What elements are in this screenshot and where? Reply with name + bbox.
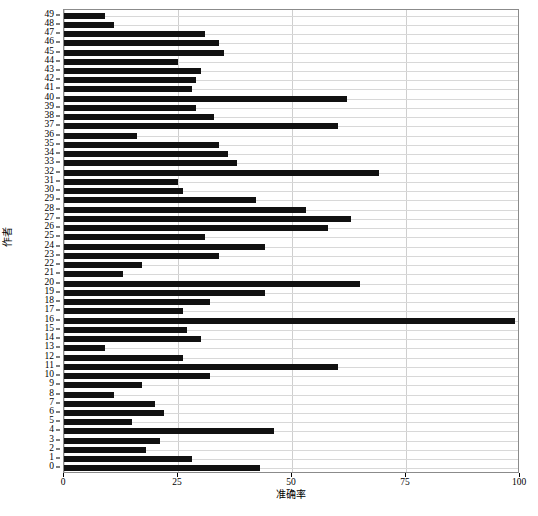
y-tick-label: 23	[45, 250, 55, 260]
y-tick-label: 24	[45, 241, 55, 251]
y-tick-label: 29	[45, 195, 55, 205]
y-tick-mark	[56, 153, 60, 154]
plot-area	[63, 9, 519, 473]
y-tick-label: 30	[45, 185, 55, 195]
bar	[64, 336, 201, 342]
bar	[64, 13, 105, 19]
y-tick-mark	[56, 338, 60, 339]
bar-chart-figure: 作者 0123456789101112131415161718192021222…	[0, 0, 538, 516]
y-tick-label: 18	[45, 296, 55, 306]
y-tick-label: 21	[45, 269, 55, 279]
bar	[64, 142, 219, 148]
y-tick-mark	[56, 402, 60, 403]
y-tick-mark	[56, 282, 60, 283]
y-tick-mark	[56, 70, 60, 71]
y-tick-label: 49	[45, 10, 55, 20]
bar	[64, 179, 178, 185]
y-tick-mark	[56, 264, 60, 265]
y-tick-label: 8	[49, 389, 54, 399]
y-tick-mark	[56, 79, 60, 80]
bar	[64, 308, 183, 314]
y-tick-mark	[56, 180, 60, 181]
bar	[64, 50, 224, 56]
x-tick-label: 25	[172, 478, 182, 488]
y-tick-label: 40	[45, 93, 55, 103]
bar	[64, 31, 205, 37]
bar	[64, 234, 205, 240]
y-tick-mark	[56, 411, 60, 412]
y-tick-mark	[56, 291, 60, 292]
y-tick-label: 6	[49, 407, 54, 417]
y-tick-mark	[56, 421, 60, 422]
y-tick-mark	[56, 245, 60, 246]
y-tick-label: 28	[45, 204, 55, 214]
y-tick-mark	[56, 88, 60, 89]
x-axis-title: 准确率	[63, 490, 519, 500]
bar	[64, 86, 192, 92]
bar	[64, 419, 132, 425]
y-tick-label: 45	[45, 47, 55, 57]
y-tick-label: 36	[45, 130, 55, 140]
bar	[64, 22, 114, 28]
bar	[64, 438, 160, 444]
bar	[64, 96, 347, 102]
x-tick-label: 100	[512, 478, 526, 488]
y-tick-mark	[56, 273, 60, 274]
y-tick-label: 32	[45, 167, 55, 177]
y-tick-label: 15	[45, 324, 55, 334]
y-tick-label: 10	[45, 370, 55, 380]
bar	[64, 401, 155, 407]
y-tick-mark	[56, 42, 60, 43]
bar	[64, 160, 237, 166]
y-gridline	[64, 395, 518, 396]
y-tick-mark	[56, 365, 60, 366]
y-tick-label: 16	[45, 315, 55, 325]
y-axis-title: 作者	[0, 0, 16, 474]
y-gridline	[64, 16, 518, 17]
y-tick-label: 7	[49, 398, 54, 408]
y-tick-label: 38	[45, 111, 55, 121]
y-tick-mark	[56, 23, 60, 24]
y-tick-mark	[56, 375, 60, 376]
bar	[64, 327, 187, 333]
y-tick-mark	[56, 106, 60, 107]
y-tick-label: 35	[45, 139, 55, 149]
y-tick-label: 39	[45, 102, 55, 112]
y-tick-label: 17	[45, 306, 55, 316]
bar	[64, 447, 146, 453]
y-tick-mark	[56, 356, 60, 357]
bar	[64, 465, 260, 471]
y-gridline	[64, 348, 518, 349]
y-tick-label: 33	[45, 158, 55, 168]
y-tick-mark	[56, 208, 60, 209]
bar	[64, 364, 338, 370]
bar	[64, 40, 219, 46]
y-tick-label: 42	[45, 74, 55, 84]
bar	[64, 68, 201, 74]
y-axis-title-text: 作者	[3, 227, 13, 247]
bar	[64, 373, 210, 379]
bar	[64, 114, 214, 120]
y-tick-mark	[56, 301, 60, 302]
y-tick-label: 9	[49, 380, 54, 390]
y-tick-label: 46	[45, 38, 55, 48]
y-tick-label: 19	[45, 287, 55, 297]
bar	[64, 123, 338, 129]
y-tick-mark	[56, 458, 60, 459]
y-tick-label: 37	[45, 121, 55, 131]
y-tick-label: 20	[45, 278, 55, 288]
bar	[64, 225, 328, 231]
bar	[64, 382, 142, 388]
y-tick-mark	[56, 143, 60, 144]
y-tick-label: 3	[49, 435, 54, 445]
y-tick-mark	[56, 430, 60, 431]
bar	[64, 170, 379, 176]
y-tick-mark	[56, 162, 60, 163]
y-gridline	[64, 25, 518, 26]
bar	[64, 133, 137, 139]
bar	[64, 318, 515, 324]
y-tick-label: 41	[45, 84, 55, 94]
bar	[64, 392, 114, 398]
y-tick-label: 1	[49, 453, 54, 463]
bar	[64, 105, 196, 111]
